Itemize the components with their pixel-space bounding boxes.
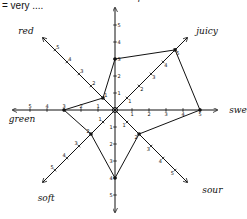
radar-chart: 12345crisp12345juicy12345sweet12345sour1… [0,0,247,219]
data-point-red [101,96,105,100]
tick-label: 4 [159,158,162,164]
data-point-juicy [173,48,177,52]
tick-label: 1 [128,98,131,104]
tick-label: 4 [109,175,112,181]
axis-label-juicy: juicy [194,26,219,36]
tick-label: 5 [56,44,59,50]
tick-label: 5 [28,103,31,109]
tick-label: 4 [68,56,71,62]
data-point-sweet [198,108,202,112]
tick-label: 2 [109,141,112,147]
data-point-crisp [113,57,117,61]
tick-label: 1 [99,116,102,122]
tick-label: 3 [75,140,78,146]
data-point-soft [89,132,93,136]
tick-label: 4 [117,39,120,45]
data-point-crunchy [113,176,117,180]
tick-label: 3 [147,146,150,152]
tick-label: 3 [80,68,83,74]
tick-label: 2 [140,86,143,92]
tick-label: 5 [117,22,120,28]
tick-label: 1 [96,103,99,109]
tick-label: 3 [152,74,155,80]
tick-label: 1 [117,90,120,96]
data-point-sour [137,132,141,136]
tick-label: 3 [164,111,167,117]
axis-label-green: green [9,114,36,124]
axis-label-sour: sour [202,185,223,195]
tick-label: 4 [164,62,167,68]
tick-label: 5 [171,170,174,176]
tick-label: 2 [92,80,95,86]
tick-label: 3 [109,158,112,164]
axis-label-soft: soft [38,193,55,203]
tick-label: 4 [45,103,48,109]
tick-label: 1 [109,124,112,130]
tick-label: 4 [62,152,65,158]
tick-label: 5 [198,111,201,117]
tick-label: 5 [50,164,53,170]
tick-label: 3 [62,103,65,109]
axis-label-crunchy: crunchy [121,218,159,219]
axis-label-crisp: crisp [121,0,144,2]
axis-label-red: red [18,26,34,36]
tick-label: 1 [123,122,126,128]
tick-label: 2 [117,73,120,79]
data-point-green [62,108,66,112]
tick-label: 5 [109,192,112,198]
tick-label: 1 [130,111,133,117]
axis-label-sweet: sweet [229,105,247,115]
tick-label: 2 [147,111,150,117]
